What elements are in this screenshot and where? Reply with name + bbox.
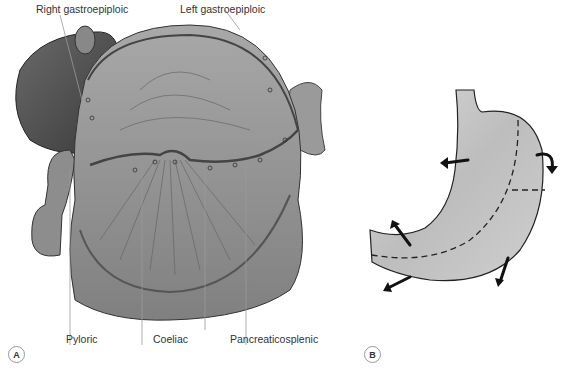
label-coeliac: Coeliac (153, 333, 188, 345)
arrow-lower-pylorus (388, 277, 410, 288)
panel-a-badge: A (8, 346, 25, 363)
stomach-outline (370, 90, 543, 281)
figure-canvas (0, 0, 570, 370)
gallbladder (75, 26, 95, 54)
panel-b-badge: B (364, 346, 381, 363)
label-pyloric: Pyloric (66, 333, 98, 345)
panel-a-illustration (16, 10, 325, 345)
label-pancreaticosplenic: Pancreaticosplenic (230, 333, 318, 345)
label-left-gastroepiploic: Left gastroepiploic (180, 3, 265, 15)
panel-b-illustration (370, 90, 558, 292)
duodenum (32, 150, 75, 256)
label-right-gastroepiploic: Right gastroepiploic (36, 3, 128, 15)
